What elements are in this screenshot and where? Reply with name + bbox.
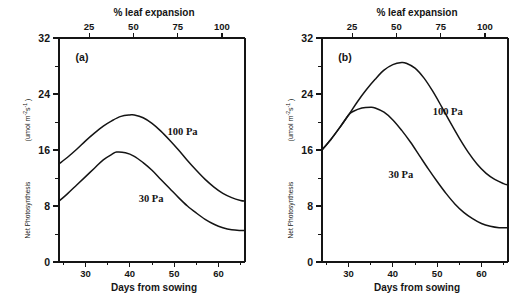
x-axis-title: Days from sowing <box>111 282 197 293</box>
top-tick-label: 75 <box>172 21 183 32</box>
series-label: 30 Pa <box>388 169 414 180</box>
top-tick-label: 75 <box>435 21 446 32</box>
x-tick-label: 60 <box>476 268 487 279</box>
top-tick-label: 25 <box>84 21 95 32</box>
y-tick-label: 16 <box>301 144 313 156</box>
y-tick-label: 8 <box>307 200 313 212</box>
series-label: 30 Pa <box>139 193 165 204</box>
series-label: 100 Pa <box>168 126 199 137</box>
chart-panel-a: 08162432Net Photosynthesis(umol m-2s-1 )… <box>0 0 263 302</box>
data-curve <box>59 115 245 201</box>
data-curve <box>322 62 508 185</box>
x-tick-label: 50 <box>169 268 180 279</box>
top-axis-title: % leaf expansion <box>376 7 457 18</box>
top-axis: 255075100 <box>84 21 230 38</box>
top-tick-label: 100 <box>477 21 493 32</box>
top-tick-label: 50 <box>391 21 402 32</box>
figure-root: 08162432Net Photosynthesis(umol m-2s-1 )… <box>0 0 526 302</box>
y-tick-label: 24 <box>301 88 313 100</box>
x-tick-label: 30 <box>80 268 91 279</box>
x-tick-label: 40 <box>388 268 399 279</box>
top-tick-label: 50 <box>128 21 139 32</box>
x-tick-label: 60 <box>213 268 224 279</box>
x-tick-label: 40 <box>125 268 136 279</box>
y-axis-title: Net Photosynthesis <box>24 181 32 239</box>
y-tick-label: 16 <box>38 144 50 156</box>
y-tick-label: 32 <box>38 32 50 44</box>
top-tick-label: 25 <box>347 21 358 32</box>
y-tick-label: 32 <box>301 32 313 44</box>
x-axis: 30405060 <box>63 262 240 279</box>
plot-frame <box>59 38 245 262</box>
y-axis: 08162432 <box>38 32 59 268</box>
y-axis-unit: (umol m-2s-1 ) <box>285 99 295 142</box>
panel-label: (b) <box>338 51 351 63</box>
top-axis: 255075100 <box>347 21 493 38</box>
y-axis-unit: (umol m-2s-1 ) <box>22 99 32 142</box>
y-tick-label: 0 <box>307 256 313 268</box>
y-axis-title: Net Photosynthesis <box>287 181 295 239</box>
y-tick-label: 24 <box>38 88 50 100</box>
top-axis-title: % leaf expansion <box>113 7 194 18</box>
data-curve <box>59 152 245 231</box>
y-tick-label: 8 <box>44 200 50 212</box>
y-tick-label: 0 <box>44 256 50 268</box>
x-axis-title: Days from sowing <box>374 282 460 293</box>
y-axis: 08162432 <box>301 32 322 268</box>
chart-panel-b: 08162432Net Photosynthesis(umol m-2s-1 )… <box>263 0 526 302</box>
series-label: 100 Pa <box>433 106 464 117</box>
x-tick-label: 50 <box>432 268 443 279</box>
panel-label: (a) <box>76 51 89 63</box>
x-tick-label: 30 <box>343 268 354 279</box>
x-axis: 30405060 <box>326 262 503 279</box>
top-tick-label: 100 <box>214 21 230 32</box>
